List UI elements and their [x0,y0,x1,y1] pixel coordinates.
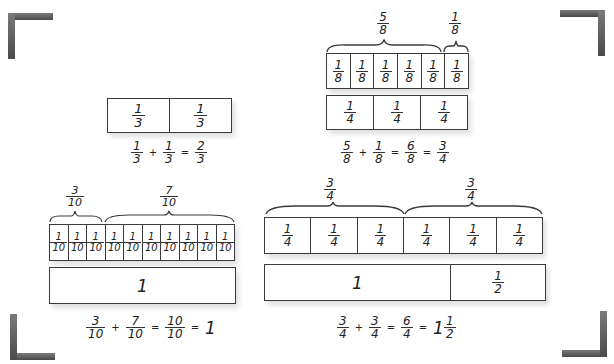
eighths-brace-label-left: 58 [368,10,398,36]
fraction-cell: 13 [108,99,170,132]
fraction: 58 [377,11,389,36]
quarters-brace-right [404,202,543,216]
fraction: 13 [132,102,144,129]
fraction-cell: 14 [404,218,450,253]
corner-bracket-top-right [560,10,605,56]
fraction: 18 [373,140,385,165]
tenths-brace-left [49,211,103,224]
fraction-cell: 18 [374,54,398,88]
fraction-cell: 14 [450,218,496,253]
fraction: 110 [143,232,160,253]
fraction: 110 [106,232,123,253]
fraction: 14 [328,223,340,248]
fraction: 310 [66,185,84,208]
quarters-comparison-bar: 141414 [326,95,468,130]
fraction: 1010 [165,315,184,340]
corner-bracket-bottom-right [562,311,607,357]
fraction: 18 [380,59,392,84]
eighths-brace-right [443,40,469,54]
fraction: 12 [444,315,456,340]
tenths-brace-label-right: 710 [157,184,181,208]
quarters-equation: 34+34=64=112 [337,315,456,340]
fraction: 710 [160,185,178,208]
fraction: 14 [513,223,525,248]
fraction-cell: 18 [398,54,422,88]
fraction-cell: 14 [497,218,542,253]
fraction: 110 [217,232,234,253]
fraction-cell: 13 [170,99,231,132]
fraction: 18 [333,59,345,84]
fraction-cell: 18 [351,54,375,88]
fraction: 64 [401,315,413,340]
fraction: 18 [356,59,368,84]
thirds-equation: 13+13=23 [131,140,207,165]
fraction: 110 [161,232,178,253]
equals-sign: = [391,147,399,158]
plus-sign: + [355,322,363,333]
fraction: 13 [163,140,175,165]
whole-number: 1 [205,318,216,338]
fraction: 58 [341,140,353,165]
fraction: 13 [131,140,143,165]
plus-sign: + [359,147,367,158]
fraction-cell: 14 [311,218,357,253]
tenths-brace-right [104,211,235,224]
fraction: 110 [50,232,67,253]
fraction-cell: 110 [143,225,162,260]
fraction: 110 [198,232,215,253]
tenths-brace-label-left: 310 [63,184,87,208]
fraction-cell: 18 [422,54,446,88]
half-cell: 12 [451,265,545,300]
equals-sign: = [151,322,159,333]
quarters-bar: 141414141414 [264,217,543,254]
equals-sign: = [419,322,427,333]
equals-sign: = [423,147,431,158]
fraction-cell: 14 [265,218,311,253]
mixed-number: 112 [433,315,455,340]
equals-sign: = [387,322,395,333]
eighths-brace-label-right: 18 [443,10,467,36]
whole-cell: 1 [265,265,451,300]
plus-sign: + [149,147,157,158]
fraction: 110 [180,232,197,253]
plus-sign: + [111,322,119,333]
quarters-brace-label-left: 34 [318,176,342,202]
fraction: 310 [86,315,105,340]
corner-bracket-top-left [8,13,53,59]
fraction: 14 [391,100,403,125]
fraction: 18 [404,59,416,84]
one-and-half-bar: 1 12 [264,264,546,301]
fraction: 14 [438,100,450,125]
fraction: 110 [124,232,141,253]
fraction-cell: 14 [327,96,374,129]
fraction: 34 [324,177,336,202]
fraction-cell: 18 [445,54,468,88]
thirds-bar: 1313 [107,98,232,133]
fraction-cell: 110 [217,225,235,260]
fraction-cell: 110 [87,225,106,260]
fraction-cell: 14 [374,96,421,129]
fraction-cell: 110 [106,225,125,260]
fraction: 110 [87,232,104,253]
fraction-cell: 110 [124,225,143,260]
fraction-cell: 14 [358,218,404,253]
eighths-equation: 58+18=68=34 [341,140,449,165]
fraction-cell: 110 [161,225,180,260]
fraction: 68 [405,140,417,165]
fraction: 34 [465,177,477,202]
fraction: 34 [337,315,349,340]
fraction: 14 [375,223,387,248]
whole-cell: 1 [50,268,235,303]
fraction: 13 [194,102,206,129]
fraction: 34 [437,140,449,165]
fraction: 12 [492,270,504,295]
quarters-brace-left [265,202,405,216]
eighths-bar: 181818181818 [326,53,469,89]
tenths-bar: 110110110110110110110110110110 [49,224,235,261]
fraction: 18 [449,11,461,36]
equals-sign: = [191,322,199,333]
fraction-cell: 110 [69,225,88,260]
quarters-brace-label-right: 34 [459,176,483,202]
fraction-cell: 110 [50,225,69,260]
fraction: 110 [69,232,86,253]
